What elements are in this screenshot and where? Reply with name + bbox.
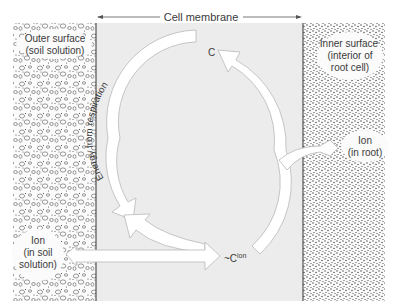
soil-ion-sublabel-2: solution)	[19, 259, 57, 270]
left-arrowhead-icon	[97, 15, 103, 19]
membrane-transport-diagram: Cell membrane Outer surface (soil soluti…	[0, 0, 395, 306]
soil-ion-sublabel-1: (in soil	[24, 247, 53, 258]
cell-membrane-text: Cell membrane	[164, 11, 239, 23]
outer-surface-subtitle: (soil solution)	[26, 45, 85, 56]
inner-surface-subtitle-1: (interior of	[327, 50, 372, 61]
inner-surface-title: Inner surface	[320, 38, 379, 49]
root-ion-label: Ion	[358, 135, 372, 146]
root-ion-sublabel: (in root)	[348, 147, 382, 158]
outer-surface-title: Outer surface	[25, 33, 86, 44]
cell-membrane-label: Cell membrane	[97, 11, 302, 23]
right-arrowhead-icon	[296, 15, 302, 19]
inner-surface-subtitle-2: root cell)	[331, 62, 369, 73]
soil-ion-label: Ion	[31, 235, 45, 246]
carrier-label: C	[208, 47, 215, 58]
